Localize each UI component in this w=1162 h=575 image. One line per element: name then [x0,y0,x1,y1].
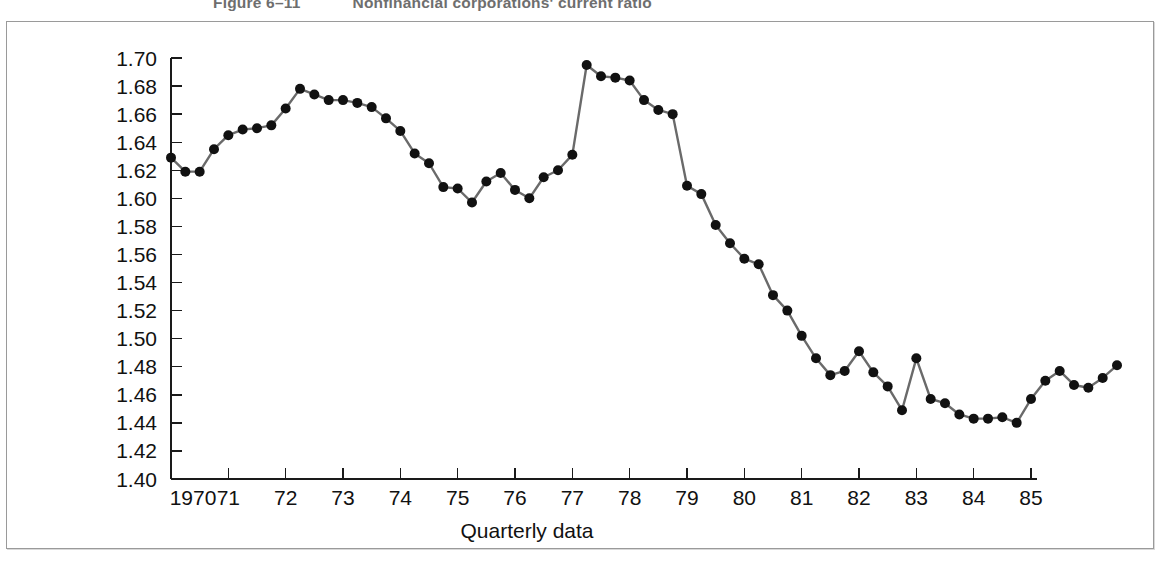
data-point-marker [166,153,176,163]
x-tick-label: 74 [389,486,413,509]
y-tick-label: 1.64 [116,131,157,154]
data-point-marker [539,172,549,182]
data-point-marker [424,158,434,168]
data-point-marker [696,189,706,199]
data-point-marker [840,366,850,376]
data-point-marker [725,238,735,248]
data-point-marker [782,306,792,316]
data-point-marker [381,113,391,123]
figure-caption: Figure 6–11Nonfinancial corporations' cu… [213,0,652,12]
data-point-marker [625,75,635,85]
data-point-marker [1012,418,1022,428]
data-point-marker [768,290,778,300]
data-point-marker [610,73,620,83]
data-point-marker [238,125,248,135]
data-point-marker [940,398,950,408]
data-point-marker [281,104,291,114]
data-point-marker [1026,394,1036,404]
x-tick-label: 83 [905,486,928,509]
data-point-marker [467,198,477,208]
x-tick-label: 82 [847,486,870,509]
data-point-marker [1112,360,1122,370]
data-point-marker [639,95,649,105]
data-point-marker [1055,366,1065,376]
chart-plot-area: 1.701.681.661.641.621.601.581.561.541.52… [7,22,1155,550]
data-point-marker [295,84,305,94]
x-axis: 1970717273747576777879808182838485 [170,468,1043,509]
y-tick-label: 1.44 [116,411,157,434]
data-point-marker [567,150,577,160]
series-line [171,65,1117,423]
y-tick-label: 1.62 [116,159,157,182]
y-tick-label: 1.52 [116,299,157,322]
y-axis: 1.701.681.661.641.621.601.581.561.541.52… [116,47,182,491]
data-point-marker [668,109,678,119]
y-tick-label: 1.68 [116,75,157,98]
data-point-marker [1098,373,1108,383]
data-point-marker [1040,376,1050,386]
x-tick-label: 81 [790,486,813,509]
data-point-marker [997,412,1007,422]
data-point-marker [453,184,463,194]
data-point-marker [653,105,663,115]
x-tick-label: 71 [217,486,240,509]
data-point-marker [481,176,491,186]
data-point-marker [180,167,190,177]
figure-caption-strip: Figure 6–11Nonfinancial corporations' cu… [0,0,1162,18]
line-chart: 1.701.681.661.641.621.601.581.561.541.52… [7,22,1155,550]
data-point-marker [582,60,592,70]
y-tick-label: 1.60 [116,187,157,210]
x-tick-label: 76 [503,486,526,509]
data-point-marker [911,353,921,363]
data-point-marker [1069,380,1079,390]
data-point-marker [1083,383,1093,393]
data-point-marker [883,381,893,391]
y-tick-label: 1.66 [116,103,157,126]
data-point-marker [711,220,721,230]
data-point-marker [209,144,219,154]
data-point-marker [897,405,907,415]
data-point-marker [553,165,563,175]
figure-title: Nonfinancial corporations' current ratio [353,0,652,11]
data-series-current-ratio [166,60,1122,428]
data-point-marker [496,168,506,178]
data-point-marker [324,95,334,105]
data-point-marker [825,370,835,380]
data-point-marker [510,185,520,195]
data-point-marker [309,89,319,99]
figure-number: Figure 6–11 [213,0,301,11]
y-tick-label: 1.46 [116,383,157,406]
data-point-marker [367,102,377,112]
data-point-marker [854,346,864,356]
y-tick-label: 1.50 [116,327,157,350]
x-tick-label: 77 [561,486,584,509]
x-tick-label: 78 [618,486,641,509]
y-tick-label: 1.58 [116,215,157,238]
data-point-marker [868,367,878,377]
data-point-marker [983,414,993,424]
data-point-marker [797,331,807,341]
data-point-marker [739,254,749,264]
y-tick-label: 1.40 [116,468,157,491]
data-point-marker [223,130,233,140]
data-point-marker [954,409,964,419]
data-point-marker [969,414,979,424]
data-point-marker [438,182,448,192]
x-tick-label: 80 [733,486,756,509]
data-point-marker [338,95,348,105]
data-point-marker [596,71,606,81]
figure-panel: 1.701.681.661.641.621.601.581.561.541.52… [6,21,1154,549]
y-tick-label: 1.56 [116,243,157,266]
data-point-marker [195,167,205,177]
x-tick-label: 75 [446,486,469,509]
data-point-marker [524,193,534,203]
x-tick-label: 72 [274,486,297,509]
data-point-marker [682,181,692,191]
y-tick-label: 1.48 [116,355,157,378]
data-point-marker [252,123,262,133]
x-tick-label: 85 [1019,486,1042,509]
y-tick-label: 1.54 [116,271,157,294]
data-point-marker [395,126,405,136]
data-point-marker [410,148,420,158]
data-point-marker [811,353,821,363]
